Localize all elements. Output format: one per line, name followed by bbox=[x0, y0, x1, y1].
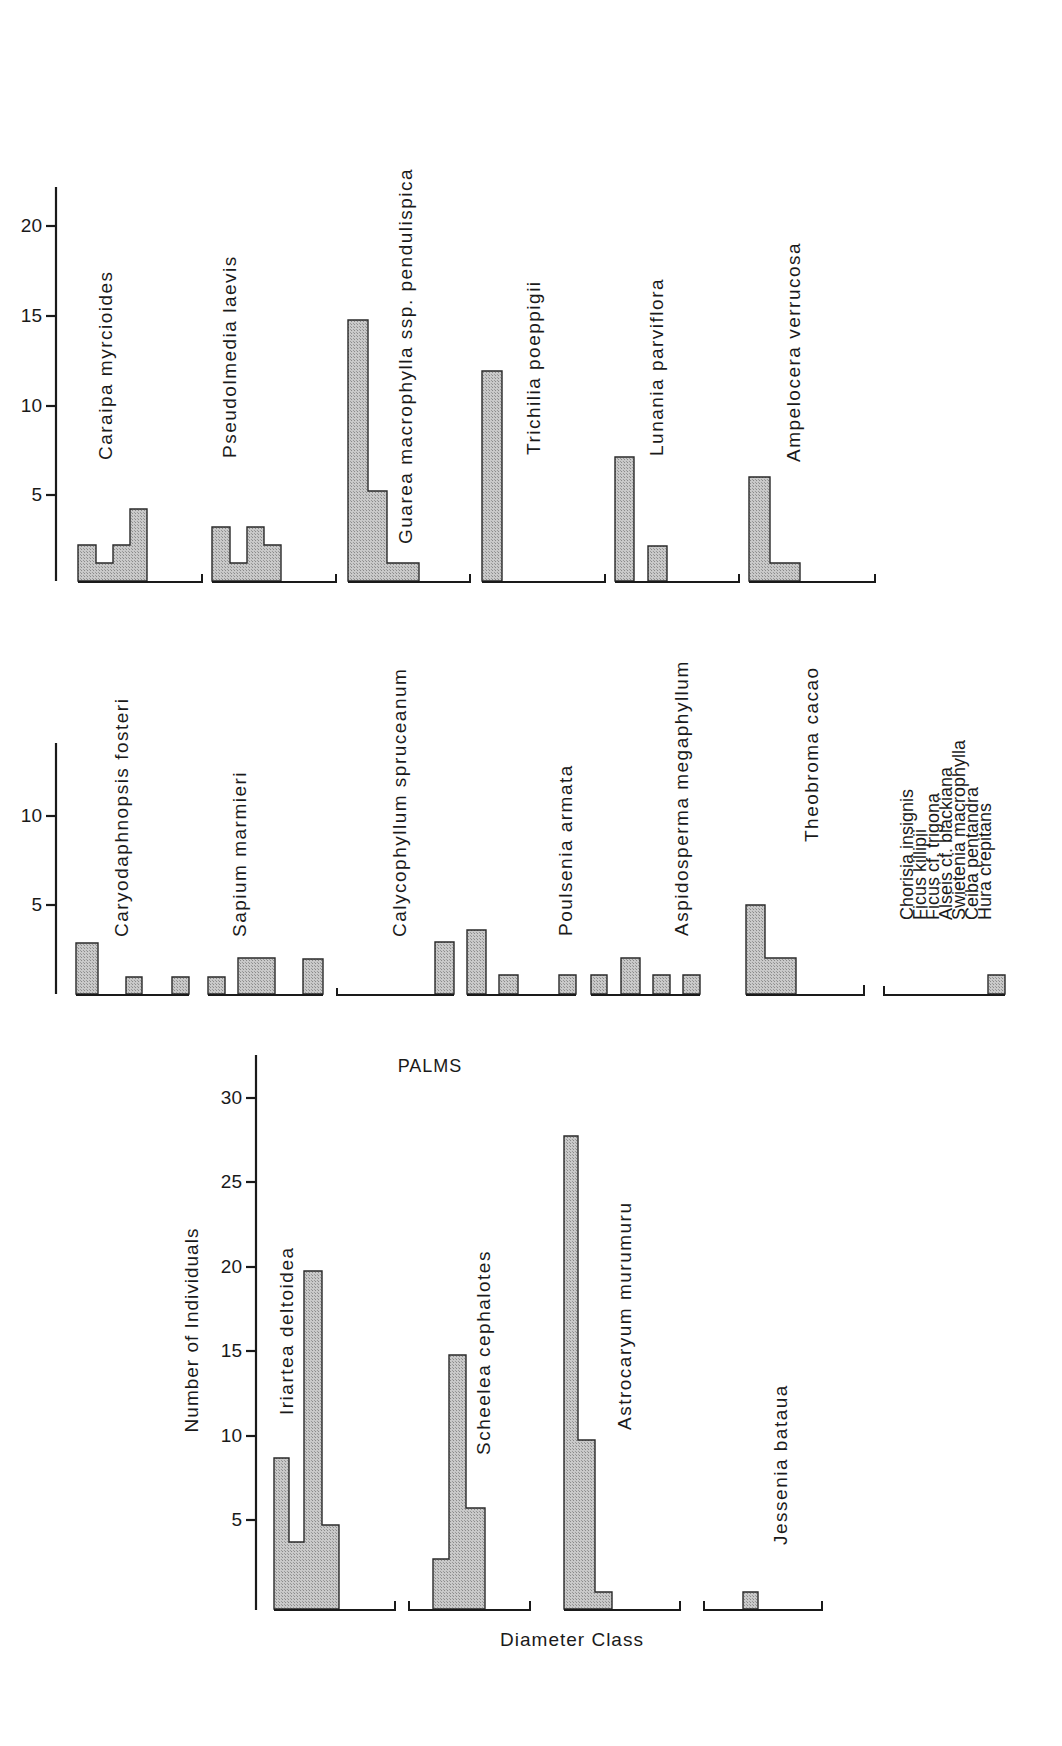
species-label: Guarea macrophylla ssp. pendulispica bbox=[395, 168, 416, 544]
species-label: Trichilia poeppigii bbox=[523, 280, 544, 455]
histogram-poulsenia: Poulsenia armata bbox=[467, 764, 576, 995]
histogram-jessenia: Jessenia bataua bbox=[704, 1384, 822, 1610]
histogram-iriartea: Iriartea deltoidea bbox=[274, 1246, 395, 1610]
species-label: Aspidosperma megaphyllum bbox=[671, 660, 692, 936]
histogram-astrocaryum: Astrocaryum murumuru bbox=[564, 1136, 680, 1610]
species-label: Sapium marmieri bbox=[229, 771, 250, 937]
species-label: Astrocaryum murumuru bbox=[614, 1202, 635, 1431]
tick-label: 25 bbox=[221, 1171, 242, 1192]
palms-title: PALMS bbox=[398, 1056, 463, 1076]
top-y-ticks: 20 15 10 5 bbox=[21, 215, 56, 505]
histogram-calycophyllum: Calycophyllum spruceanum bbox=[337, 668, 454, 995]
histogram-ampelocera: Ampelocera verrucosa bbox=[749, 242, 875, 582]
tick-label: 5 bbox=[31, 484, 42, 505]
tick-label: 10 bbox=[21, 805, 42, 826]
histogram-lunania: Lunania parviflora bbox=[615, 278, 739, 582]
tick-label: 5 bbox=[231, 1509, 242, 1530]
tick-label: 20 bbox=[221, 1256, 242, 1277]
species-label: Lunania parviflora bbox=[646, 278, 667, 456]
species-label: Jessenia bataua bbox=[770, 1384, 791, 1545]
species-label: Calycophyllum spruceanum bbox=[389, 668, 410, 937]
histogram-pseudolmedia: Pseudolmedia laevis bbox=[212, 255, 336, 582]
species-label: Caraipa myrcioides bbox=[95, 270, 116, 460]
species-label: Caryodaphnopsis fosteri bbox=[111, 698, 132, 937]
species-label: Ampelocera verrucosa bbox=[783, 242, 804, 462]
histogram-trichilia: Trichilia poeppigii bbox=[482, 280, 605, 582]
histogram-theobroma: Theobroma cacao bbox=[746, 666, 864, 995]
species-label: Theobroma cacao bbox=[801, 666, 822, 842]
tick-label: 10 bbox=[21, 395, 42, 416]
palms-panel: PALMS Number of Individuals Diameter Cla… bbox=[181, 1055, 822, 1650]
histogram-aspidosperma: Aspidosperma megaphyllum bbox=[591, 660, 700, 995]
middle-y-ticks: 10 5 bbox=[21, 805, 56, 915]
histogram-guarea: Guarea macrophylla ssp. pendulispica bbox=[348, 168, 470, 582]
histogram-other-species: Chorisia insignis Ficus killipii Ficus c… bbox=[884, 739, 1005, 995]
histogram-caryodaphnopsis: Caryodaphnopsis fosteri bbox=[76, 698, 189, 995]
tick-label: 15 bbox=[21, 305, 42, 326]
species-label: Poulsenia armata bbox=[555, 764, 576, 936]
species-group-list: Chorisia insignis Ficus killipii Ficus c… bbox=[897, 739, 995, 920]
figure: 20 15 10 5 Caraipa myrcioides Pseudolmed… bbox=[0, 0, 1062, 1746]
palms-y-ticks: 30 25 20 15 10 5 bbox=[221, 1087, 256, 1530]
species-label: Iriartea deltoidea bbox=[276, 1246, 297, 1415]
tick-label: 10 bbox=[221, 1425, 242, 1446]
middle-row-panel: 10 5 Caryodaphnopsis fosteri Sapium marm… bbox=[21, 660, 1005, 995]
tick-label: 20 bbox=[21, 215, 42, 236]
histogram-caraipa: Caraipa myrcioides bbox=[78, 270, 202, 582]
tick-label: 15 bbox=[221, 1340, 242, 1361]
x-axis-label: Diameter Class bbox=[500, 1629, 644, 1650]
species-label: Pseudolmedia laevis bbox=[219, 255, 240, 458]
histogram-scheelea: Scheelea cephalotes bbox=[409, 1250, 530, 1610]
histogram-sapium: Sapium marmieri bbox=[208, 771, 323, 995]
species-label: Scheelea cephalotes bbox=[473, 1250, 494, 1455]
y-axis-label: Number of Individuals bbox=[181, 1228, 202, 1433]
tick-label: 5 bbox=[31, 894, 42, 915]
tick-label: 30 bbox=[221, 1087, 242, 1108]
species-label: Hura crepitans bbox=[975, 803, 995, 920]
top-row-panel: 20 15 10 5 Caraipa myrcioides Pseudolmed… bbox=[21, 168, 875, 582]
